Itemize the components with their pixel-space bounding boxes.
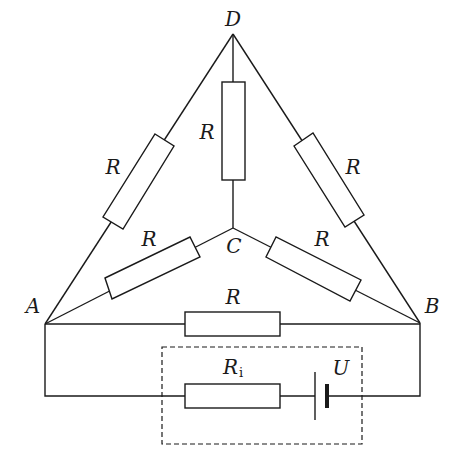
resistor-label-b-c: R bbox=[313, 227, 329, 251]
circuit-diagram: D C A B R R R R R R Ri U bbox=[0, 0, 459, 470]
wire-left-loop bbox=[45, 324, 185, 396]
resistor-label-a-c: R bbox=[140, 227, 156, 251]
resistor-label-a-b: R bbox=[224, 285, 240, 309]
node-label-d: D bbox=[224, 7, 241, 31]
battery-label: U bbox=[333, 356, 351, 380]
resistor-c-d bbox=[222, 82, 245, 180]
internal-resistor bbox=[185, 384, 280, 408]
resistor-label-a-d: R bbox=[104, 155, 120, 179]
node-label-b: B bbox=[424, 294, 440, 318]
resistor-label-c-d: R bbox=[198, 120, 214, 144]
internal-resistance-label-sub: i bbox=[239, 365, 243, 380]
internal-resistance-label: Ri bbox=[222, 355, 243, 380]
resistor-a-d bbox=[103, 134, 174, 229]
node-label-a: A bbox=[24, 294, 40, 318]
resistor-a-b bbox=[185, 312, 280, 336]
node-label-c: C bbox=[226, 234, 241, 258]
internal-resistance-label-main: R bbox=[222, 355, 238, 379]
resistor-b-d bbox=[294, 133, 364, 227]
battery-icon bbox=[315, 372, 327, 420]
resistor-label-b-d: R bbox=[344, 155, 360, 179]
